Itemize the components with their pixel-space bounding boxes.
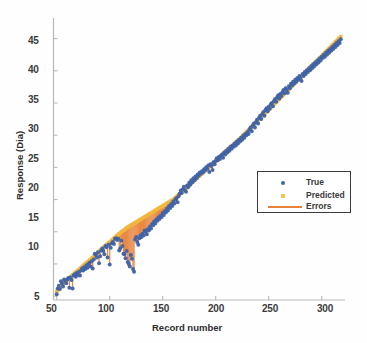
chart-figure: 45 40 35 30 25 20 15 10 5 50 100 150 200… (0, 0, 367, 343)
x-tick-300: 300 (317, 303, 333, 314)
legend-marker-true (266, 176, 302, 189)
chart-legend[interactable]: True Predicted Errors (257, 171, 351, 213)
y-tick-25: 25 (28, 153, 39, 164)
y-tick-35: 35 (28, 94, 39, 105)
y-tick-20: 20 (28, 182, 39, 193)
y-tick-30: 30 (28, 123, 39, 134)
x-tick-200: 200 (208, 303, 224, 314)
y-tick-45: 45 (28, 35, 39, 46)
legend-item-true[interactable]: True (258, 176, 352, 189)
x-tick-100: 100 (98, 303, 114, 314)
predicted-markers (55, 35, 342, 293)
y-tick-40: 40 (28, 64, 39, 75)
x-tick-250: 250 (262, 303, 278, 314)
x-axis-label: Record number (152, 322, 222, 333)
true-dot-icon (281, 181, 285, 185)
legend-label-errors: Errors (306, 200, 332, 213)
true-markers (55, 37, 343, 296)
legend-label-true: True (306, 176, 324, 189)
legend-item-errors[interactable]: Errors (258, 200, 352, 213)
y-tick-5: 5 (34, 291, 39, 302)
legend-marker-errors (266, 200, 302, 213)
y-tick-15: 15 (28, 212, 39, 223)
predicted-square-icon (281, 194, 285, 198)
errors-line-icon (268, 206, 302, 208)
x-tick-50: 50 (46, 303, 57, 314)
y-tick-10: 10 (28, 241, 39, 252)
y-axis-label: Response (Dia) (14, 131, 25, 200)
x-tick-150: 150 (153, 303, 169, 314)
